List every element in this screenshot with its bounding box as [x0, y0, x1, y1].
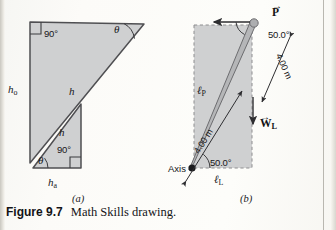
label-right-angle-large: 90° — [44, 29, 58, 39]
figure-caption: Figure 9.7 Math Skills drawing. — [6, 205, 176, 220]
label-side-adjacent-sub: a — [54, 181, 58, 190]
label-force-P: → P — [272, 6, 279, 18]
label-weight-W: → WL — [260, 117, 277, 131]
label-lever-arm-L: ℓL — [214, 174, 223, 187]
label-side-opposite-sub: o — [14, 88, 18, 97]
label-axis: Axis — [168, 163, 186, 174]
label-hypotenuse-large: h — [69, 86, 75, 97]
label-side-adjacent: ha — [48, 177, 57, 190]
label-right-angle-small: 90° — [57, 145, 71, 155]
label-theta-large: θ — [114, 24, 119, 35]
label-theta-small: θ — [38, 155, 43, 166]
force-P-vector-hat: → — [272, 0, 282, 11]
panel-a-group — [30, 22, 144, 168]
lever-arm-P-subscript: P — [202, 89, 206, 98]
lever-arm-L-subscript: L — [219, 178, 224, 187]
label-hypotenuse-small: h — [59, 127, 65, 138]
label-angle-bottom: 50.0° — [210, 158, 231, 168]
panel-a-label: (a) — [72, 193, 84, 204]
panel-b-group — [186, 19, 290, 181]
figure-caption-number: Figure 9.7 — [6, 205, 63, 219]
figure-caption-text: Math Skills drawing. — [71, 205, 176, 219]
ladder-top-end — [250, 19, 258, 27]
figure-page: 90° 90° θ θ h h ho ha (a) → P → WL 50.0°… — [0, 0, 336, 230]
large-triangle-shape — [30, 22, 144, 163]
weight-W-subscript: L — [272, 122, 278, 131]
label-lever-arm-P: ℓP — [197, 85, 206, 98]
weight-W-vector-hat: → — [260, 111, 270, 122]
label-side-opposite: ho — [8, 84, 17, 97]
label-angle-top: 50.0° — [268, 30, 289, 40]
panel-b-label: (b) — [240, 193, 252, 204]
